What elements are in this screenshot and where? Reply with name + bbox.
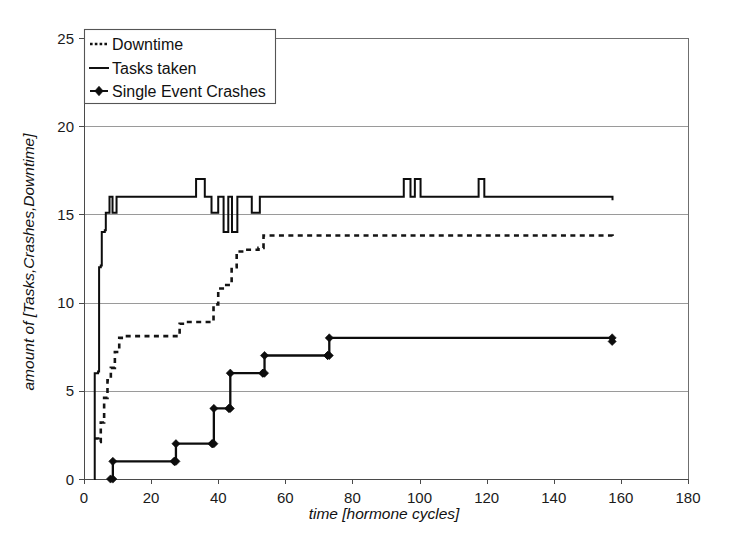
x-tick-label-120: 120 <box>474 489 499 506</box>
chart-canvas: 0510152025 020406080100120140160180 time… <box>0 0 732 538</box>
x-tick-label-180: 180 <box>675 489 700 506</box>
x-axis-tick-labels: 020406080100120140160180 <box>80 489 701 506</box>
y-axis-title: amount of [Tasks,Crashes,Downtime] <box>20 133 37 391</box>
series-group <box>94 179 612 479</box>
series-marker-single-event-crashes <box>210 404 218 412</box>
y-axis-tick-labels: 0510152025 <box>57 30 74 488</box>
x-tick-label-100: 100 <box>407 489 432 506</box>
legend-label-tasks-taken: Tasks taken <box>112 60 196 77</box>
series-line-single-event-crashes <box>111 338 613 479</box>
y-tick-label-20: 20 <box>57 118 74 135</box>
x-tick-label-20: 20 <box>143 489 160 506</box>
series-marker-single-event-crashes <box>260 351 268 359</box>
chart-figure: 0510152025 020406080100120140160180 time… <box>0 0 732 538</box>
series-marker-single-event-crashes <box>325 334 333 342</box>
y-tick-label-10: 10 <box>57 294 74 311</box>
plot-frame <box>84 38 689 480</box>
gridlines-group <box>84 39 688 480</box>
legend-label-downtime: Downtime <box>112 36 183 53</box>
legend-label-single-event-crashes: Single Event Crashes <box>112 83 266 100</box>
series-markers-group <box>106 334 616 483</box>
x-axis-title: time [hormone cycles] <box>309 505 460 522</box>
axis-ticks-group <box>79 39 689 485</box>
x-tick-label-0: 0 <box>80 489 88 506</box>
series-marker-single-event-crashes <box>109 457 117 465</box>
series-marker-single-event-crashes <box>172 440 180 448</box>
y-tick-label-5: 5 <box>66 382 74 399</box>
x-tick-label-80: 80 <box>344 489 361 506</box>
x-tick-label-60: 60 <box>277 489 294 506</box>
x-tick-label-140: 140 <box>541 489 566 506</box>
y-tick-label-0: 0 <box>66 471 74 488</box>
y-tick-label-25: 25 <box>57 30 74 47</box>
series-marker-single-event-crashes <box>226 369 234 377</box>
y-tick-label-15: 15 <box>57 206 74 223</box>
x-tick-label-160: 160 <box>608 489 633 506</box>
legend: Downtime Tasks taken Single Event Crashe… <box>85 30 276 104</box>
series-line-tasks-taken <box>94 179 612 479</box>
x-tick-label-40: 40 <box>210 489 227 506</box>
